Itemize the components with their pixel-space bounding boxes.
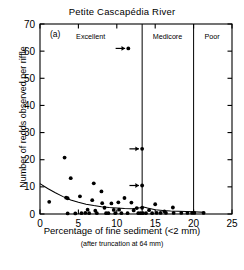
category-label-excellent: Excellent	[76, 32, 105, 41]
data-point	[83, 211, 87, 215]
annotation-arrow-head	[135, 146, 139, 151]
data-point	[153, 202, 157, 206]
data-point	[140, 184, 144, 188]
x-tick-label: 15	[150, 218, 162, 229]
data-point	[47, 200, 51, 204]
x-tick-label: 5	[76, 218, 82, 229]
data-point	[155, 211, 159, 215]
x-tick-label: 20	[188, 218, 200, 229]
y-tick-label: 10	[24, 181, 36, 192]
panel-label: (a)	[50, 29, 61, 39]
y-tick-label: 70	[24, 19, 36, 30]
y-tick-label: 0	[29, 209, 35, 220]
data-point	[113, 211, 117, 215]
x-tick-label: 25	[226, 218, 238, 229]
data-point	[103, 206, 107, 210]
data-point	[116, 200, 120, 204]
data-point	[192, 211, 196, 215]
data-point	[179, 211, 183, 215]
data-point	[164, 211, 168, 215]
data-point	[126, 47, 130, 51]
data-point	[135, 206, 139, 210]
data-point	[140, 147, 144, 151]
data-point	[112, 208, 116, 212]
data-point	[117, 208, 121, 212]
category-label-poor: Poor	[204, 32, 220, 41]
data-point	[78, 194, 82, 198]
data-point	[73, 212, 77, 216]
data-point	[86, 208, 90, 212]
data-point	[159, 211, 163, 215]
annotation-arrow-head	[122, 46, 126, 51]
data-point	[80, 211, 84, 215]
data-point	[144, 211, 148, 215]
x-tick-label: 10	[111, 218, 123, 229]
data-point	[90, 198, 94, 202]
data-point	[106, 211, 110, 215]
data-point	[63, 156, 67, 160]
data-point	[172, 211, 176, 215]
x-tick-label: 0	[37, 218, 43, 229]
data-point	[92, 181, 96, 185]
y-tick-label: 30	[24, 127, 36, 138]
data-point	[87, 211, 91, 215]
y-tick-label: 60	[24, 46, 36, 57]
data-point	[150, 211, 154, 215]
y-tick-label: 50	[24, 73, 36, 84]
data-point	[95, 211, 99, 215]
y-tick-label: 40	[24, 100, 36, 111]
data-point	[186, 211, 190, 215]
data-point	[120, 211, 124, 215]
figure-panel: Petite Cascapédia River Number of redds …	[0, 0, 244, 270]
data-point	[123, 196, 127, 200]
data-point	[132, 209, 136, 213]
annotation-arrow-head	[135, 183, 139, 188]
scatter-plot: 0102030405060700510152025ExcellentMedico…	[0, 0, 244, 270]
data-point	[69, 176, 73, 180]
data-point	[129, 201, 133, 205]
category-label-medicore: Medicore	[153, 32, 183, 41]
y-tick-label: 20	[24, 154, 36, 165]
data-point	[66, 212, 70, 216]
data-point	[110, 202, 114, 206]
data-point	[202, 211, 206, 215]
data-point	[100, 201, 104, 205]
data-point	[126, 211, 130, 215]
data-point	[147, 208, 151, 212]
data-point	[66, 196, 70, 200]
data-point	[100, 190, 104, 194]
data-point	[171, 206, 175, 210]
data-point	[140, 206, 144, 210]
